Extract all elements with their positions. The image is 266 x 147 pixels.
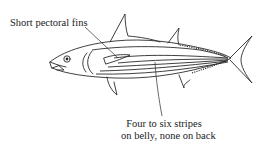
pectoral-fins-callout: Short pectoral fins <box>10 17 88 29</box>
stripes-callout: Four to six stripes on belly, none on ba… <box>121 118 207 142</box>
stripes-callout-line-2: on belly, none on back <box>121 130 207 142</box>
fish-mouth <box>50 62 66 70</box>
stripes-leader-line <box>155 62 162 116</box>
caudal-fin <box>230 36 252 83</box>
pelvic-fin <box>107 77 117 95</box>
anal-fin <box>179 75 190 88</box>
belly-stripe-1 <box>114 55 228 58</box>
gill-line-1 <box>83 53 87 72</box>
fish-diagram: Short pectoral fins Four to six stripes … <box>0 0 266 147</box>
gill-line-2 <box>88 51 93 74</box>
fish-pupil <box>66 58 69 61</box>
stripes-callout-line-1: Four to six stripes <box>121 118 207 130</box>
first-dorsal-fin <box>110 14 160 42</box>
